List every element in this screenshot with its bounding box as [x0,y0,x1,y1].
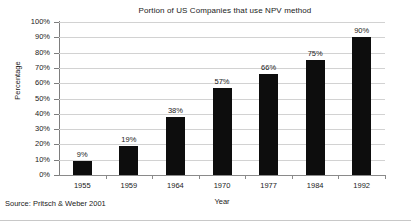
y-axis-tick [54,22,59,23]
y-axis-tick [54,114,59,115]
y-axis-tick [54,37,59,38]
y-axis-tick-label: 50% [10,94,50,103]
y-axis-tick-label: 0% [10,170,50,179]
x-axis-tick [385,175,386,179]
y-axis-tick [54,160,59,161]
bar-value-label: 9% [60,150,104,159]
y-axis-tick [54,144,59,145]
bar [352,37,371,175]
y-axis-tick-label: 100% [10,17,50,26]
x-axis-tick-label: 1992 [339,181,385,190]
x-axis-tick [199,175,200,179]
x-axis-tick-label: 1959 [106,181,152,190]
gridline [59,37,385,38]
gridline [59,22,385,23]
y-axis-tick-label: 30% [10,124,50,133]
bar-value-label: 19% [107,135,151,144]
y-axis-tick-label: 20% [10,139,50,148]
y-axis-tick [54,68,59,69]
bar-value-label: 75% [293,49,337,58]
bar-value-label: 90% [340,26,384,35]
bar [259,74,278,175]
x-axis-tick-label: 1984 [292,181,338,190]
x-axis-tick [338,175,339,179]
x-axis-tick-label: 1970 [199,181,245,190]
bar [306,60,325,175]
x-axis-tick [292,175,293,179]
x-axis-tick [152,175,153,179]
bar-value-label: 66% [247,63,291,72]
y-axis-tick [54,53,59,54]
bar-chart-figure: Portion of US Companies that use NPV met… [0,0,411,223]
x-axis-tick-label: 1977 [246,181,292,190]
bottom-divider [0,220,411,221]
y-axis-tick-label: 80% [10,48,50,57]
x-axis-tick [245,175,246,179]
gridline [59,68,385,69]
source-note: Source: Pritsch & Weber 2001 [5,199,106,208]
bar [73,161,92,175]
bar [213,88,232,175]
y-axis-tick-label: 40% [10,109,50,118]
chart-title: Portion of US Companies that use NPV met… [55,6,395,15]
gridline [59,175,385,176]
y-axis-tick [54,175,59,176]
x-axis-tick-label: 1964 [152,181,198,190]
y-axis-tick-label: 60% [10,78,50,87]
x-axis-tick [106,175,107,179]
bar [166,117,185,175]
x-axis-tick-label: 1955 [59,181,105,190]
y-axis-tick-label: 10% [10,155,50,164]
y-axis-tick [54,83,59,84]
bar [119,146,138,175]
y-axis-tick-label: 90% [10,32,50,41]
y-axis-tick-label: 70% [10,63,50,72]
x-axis-label: Year [59,197,385,206]
y-axis-tick [54,129,59,130]
bar-value-label: 57% [200,77,244,86]
bar-value-label: 38% [153,106,197,115]
y-axis-tick [54,99,59,100]
